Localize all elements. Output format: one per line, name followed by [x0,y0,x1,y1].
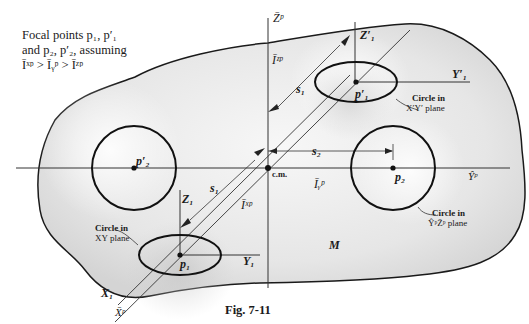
z1-prime-label: Z′₁ [359,28,375,42]
y-bar-p-label: Ŷᵖ [468,170,478,182]
note-line-2: and p₂, p′₂, assuming [22,43,127,58]
z1-label: Z₁ [181,192,194,206]
iy-label: Īᵧᵖ [313,177,325,191]
circle-yz-label-2: ŶᵖZ̄ᵖ plane [428,218,467,228]
x1-label: X₁ [100,286,113,300]
iz-label: Īᶻᵖ [271,53,283,67]
mass-label: M [328,238,340,252]
note-line-3: Īˣᵖ > Īᵧᵖ > Īᶻᵖ [22,58,127,73]
y1-prime-label: Y′₁ [452,67,467,81]
circle-yz-label-1: Circle in [432,208,465,218]
cm-label: c.m. [272,169,287,179]
circle-xy-label-2: XY plane [95,233,129,243]
p1-prime-point [353,79,358,84]
figure-caption: Fig. 7-11 [225,303,271,318]
z-bar-p-label: Z̄ᵖ [273,11,284,25]
circle-xprime-label-1: Circle in [412,93,445,103]
focal-points-note: Focal points p₁, p′₁ and p₂, p′₂, assumi… [22,28,127,73]
ix-label: Īˣᵖ [240,198,252,212]
p1-prime-label: p′₁ [354,87,369,101]
highlight [40,80,180,220]
s1-upper-label: s₁ [295,82,305,96]
circle-xy-label-1: Circle in [95,223,128,233]
y1-label: Y₁ [243,254,255,268]
p1-label: p₁ [179,257,190,271]
circle-xprime-label-2: X′Y′ plane [406,103,445,113]
s2-label: s₂ [311,144,321,158]
note-line-1: Focal points p₁, p′₁ [22,28,127,43]
center-of-mass-point [265,165,271,171]
x-bar-p-label: X̄ᵖ [114,306,126,318]
s1-lower-label: s₁ [209,181,219,195]
p2-prime-label: p′₂ [135,154,150,168]
p2-label: p₂ [394,170,405,184]
